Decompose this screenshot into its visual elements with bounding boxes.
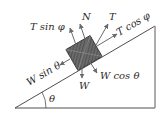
label-w-cos-theta: W cos θ [100, 70, 139, 81]
incline-diagram: T sin φ N T T cos φ W sin θ W cos θ W θ [0, 0, 165, 117]
t-cos-phi-arrow [97, 34, 117, 46]
angle-arc [42, 92, 46, 108]
label-tension: T [109, 11, 117, 22]
t-sin-phi-arrow [70, 28, 76, 45]
label-t-sin-phi: T sin φ [30, 21, 65, 32]
label-t-cos-phi: T cos φ [115, 10, 152, 38]
tension-arrow [96, 24, 108, 45]
label-normal: N [81, 11, 92, 22]
block [66, 36, 102, 71]
w-sin-theta-arrow [60, 59, 70, 65]
label-weight: W [79, 80, 90, 91]
w-cos-theta-arrow [90, 62, 97, 73]
label-angle: θ [49, 93, 55, 104]
